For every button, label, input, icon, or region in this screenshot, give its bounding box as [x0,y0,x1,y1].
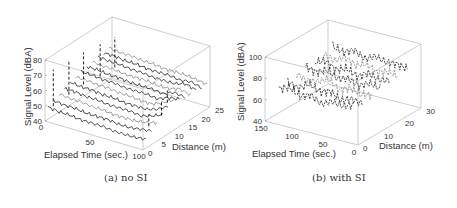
z-tick-label: 60 [253,96,262,105]
data-trace [53,99,151,132]
data-trace [306,63,380,89]
z-tick-label: 80 [253,74,262,83]
y-tick-label: 0 [363,144,368,153]
data-trace [59,94,157,124]
x-tick-label: 100 [132,152,146,161]
y-tick-label: 0 [148,149,153,158]
caption-no-si: (a) no SI [104,172,147,183]
y-tick-label: 30 [426,107,435,116]
axes-box [45,17,210,150]
y-tick-label: 10 [175,132,184,141]
x-tick-label: 150 [254,124,268,133]
z-tick-label: 100 [249,53,263,62]
x-tick-label: 0 [352,148,357,157]
y-tick-label: 20 [405,119,414,128]
z-tick-label: 60 [33,87,42,96]
y-axis-label: Distance (m) [172,141,226,152]
z-axis-label: Signal Level (dBA) [22,47,33,126]
z-tick-label: 50 [33,102,42,111]
x-tick-label: 0 [39,123,44,132]
data-trace [65,88,163,118]
z-tick-label: 70 [33,71,42,80]
data-traces [48,37,207,140]
z-axis-label: Signal Level (dBA) [235,42,246,121]
x-axis-label: Elapsed Time (sec.) [252,148,336,159]
x-tick-label: 100 [285,132,299,141]
y-axis-label: Distance (m) [379,140,433,151]
x-tick-label: 50 [86,138,95,147]
y-tick-label: 5 [161,140,166,149]
y-tick-label: 25 [215,106,224,115]
y-tick-label: 20 [202,115,211,124]
z-tick-label: 80 [33,56,42,65]
data-trace [48,106,146,140]
caption-with-si: (b) with SI [312,172,366,183]
data-trace [333,42,407,72]
x-axis-label: Elapsed Time (sec.) [44,149,128,160]
y-tick-label: 15 [188,123,197,132]
